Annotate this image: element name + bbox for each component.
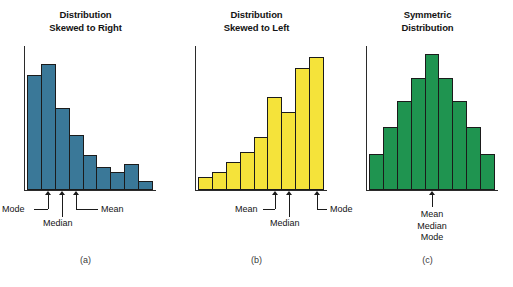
panel-symmetric-distribution: Symmetric Distribution Mean Median Mode …	[342, 0, 513, 287]
panel-b-plot-area	[195, 46, 327, 191]
panel-a-mode-label: Mode	[2, 204, 25, 215]
bar	[411, 78, 426, 190]
bar	[281, 112, 296, 189]
panel-c-center-arrow-icon	[429, 191, 436, 207]
panel-c-median-label: Median	[366, 221, 498, 233]
panel-a-bars	[27, 47, 153, 190]
panel-c-title-line1: Symmetric	[404, 9, 452, 20]
bar	[27, 75, 42, 189]
panel-a-y-axis	[24, 46, 25, 191]
panel-b-title: Distribution Skewed to Left	[171, 9, 342, 34]
bar	[226, 162, 241, 189]
bar	[41, 64, 56, 190]
panel-b-y-axis	[195, 46, 196, 191]
panel-a-mode-arrow-icon	[45, 191, 52, 203]
panel-a-median-arrow-icon	[59, 191, 66, 203]
panel-c-annotations: Mean Median Mode	[366, 191, 498, 251]
panel-b-caption: (b)	[171, 255, 342, 265]
panel-a-title-line1: Distribution	[59, 9, 111, 20]
panel-c-title-line2: Distribution	[342, 22, 513, 35]
panel-c-title: Symmetric Distribution	[342, 9, 513, 34]
bar	[69, 135, 84, 189]
bar	[240, 152, 255, 189]
panel-distribution-skewed-left: Distribution Skewed to Left	[171, 0, 342, 287]
panel-c-plot-area	[366, 46, 498, 191]
bar	[466, 127, 481, 190]
bar	[212, 172, 227, 189]
panel-b-mode-arrow-icon	[314, 191, 321, 203]
bar	[369, 154, 384, 190]
panel-b-median-arrow-icon	[286, 191, 293, 203]
bar	[124, 164, 139, 190]
bar	[198, 177, 213, 190]
panel-b-bars	[198, 47, 324, 190]
bar	[138, 181, 153, 190]
distribution-skewness-figure: Distribution Skewed to Right	[0, 0, 513, 287]
panel-a-mean-arrow-icon	[73, 191, 80, 203]
panel-c-mean-label: Mean	[366, 209, 498, 221]
bar	[438, 78, 453, 190]
bar	[397, 101, 412, 190]
panel-a-median-label: Median	[43, 218, 73, 229]
bar	[480, 154, 495, 190]
bar	[83, 155, 98, 189]
panel-a-caption: (a)	[0, 255, 171, 265]
panel-b-title-line1: Distribution	[230, 9, 282, 20]
bar	[295, 68, 310, 190]
panel-b-annotations: Mean Median Mode	[195, 191, 327, 251]
panel-a-title-line2: Skewed to Right	[0, 22, 171, 35]
bar	[254, 137, 269, 190]
panel-distribution-skewed-right: Distribution Skewed to Right	[0, 0, 171, 287]
panel-b-title-line2: Skewed to Left	[171, 22, 342, 35]
panel-c-bars	[369, 47, 495, 190]
panel-b-mean-arrow-icon	[272, 191, 279, 203]
bar	[267, 97, 282, 190]
bar	[55, 108, 70, 190]
panel-a-annotations: Mode Median Mean	[24, 191, 156, 251]
panel-b-mean-label: Mean	[235, 204, 258, 215]
bar	[425, 54, 440, 190]
bar	[110, 172, 125, 189]
panel-a-title: Distribution Skewed to Right	[0, 9, 171, 34]
panel-c-mode-label: Mode	[366, 232, 498, 244]
panel-a-mean-label: Mean	[101, 204, 124, 215]
bar	[96, 167, 111, 190]
bar	[383, 127, 398, 190]
bar	[452, 101, 467, 190]
panel-c-caption: (c)	[342, 255, 513, 265]
panel-b-median-label: Median	[270, 218, 300, 229]
bar	[309, 57, 324, 190]
panel-c-y-axis	[366, 46, 367, 191]
panel-a-plot-area	[24, 46, 156, 191]
